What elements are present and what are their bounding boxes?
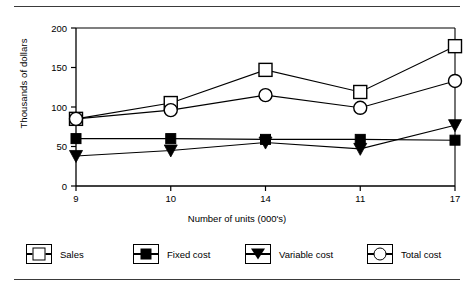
legend-item-total-cost[interactable]: Total cost bbox=[367, 240, 441, 268]
chart-plot-area: 050100150200910141117 bbox=[0, 10, 474, 232]
y-axis-tick-label: 150 bbox=[51, 62, 67, 73]
line-chart-svg: 050100150200910141117 bbox=[0, 10, 474, 232]
series-markers-sales bbox=[70, 40, 462, 126]
bottom-divider-rule bbox=[14, 279, 460, 280]
legend-label: Sales bbox=[60, 249, 84, 260]
data-point bbox=[355, 134, 365, 144]
figure-container: 050100150200910141117 Thousands of dolla… bbox=[0, 0, 474, 292]
x-axis-title: Number of units (000's) bbox=[0, 213, 474, 224]
legend-item-variable-cost[interactable]: Variable cost bbox=[245, 240, 333, 268]
series-line-sales bbox=[76, 46, 455, 119]
y-axis-tick-label: 100 bbox=[51, 102, 67, 113]
data-point bbox=[354, 143, 367, 155]
top-divider-rule bbox=[14, 6, 460, 7]
data-point bbox=[71, 134, 81, 144]
x-axis-tick-label: 11 bbox=[355, 193, 365, 204]
x-axis-tick-label: 14 bbox=[260, 193, 271, 204]
data-point bbox=[354, 85, 367, 98]
y-axis-title: Thousands of dollars bbox=[18, 18, 29, 150]
series-markers-variable-cost bbox=[70, 120, 462, 163]
data-point bbox=[70, 150, 83, 162]
data-point bbox=[449, 120, 462, 132]
legend-label: Fixed cost bbox=[167, 249, 210, 260]
data-point bbox=[164, 104, 177, 117]
data-point bbox=[259, 63, 272, 76]
data-point bbox=[354, 101, 367, 114]
square-open-icon bbox=[26, 244, 52, 264]
x-axis-tick-label: 17 bbox=[450, 193, 461, 204]
data-point bbox=[450, 135, 460, 145]
chart-legend: Sales Fixed cost Variable cost Total cos… bbox=[0, 240, 474, 270]
square-filled-icon bbox=[133, 244, 159, 264]
legend-item-fixed-cost[interactable]: Fixed cost bbox=[133, 240, 210, 268]
y-axis-tick-label: 50 bbox=[56, 141, 67, 152]
y-axis-tick-label: 0 bbox=[62, 181, 67, 192]
data-point bbox=[449, 40, 462, 53]
x-axis-tick-label: 10 bbox=[165, 193, 176, 204]
legend-label: Variable cost bbox=[279, 249, 333, 260]
x-axis-tick-label: 9 bbox=[73, 193, 78, 204]
triangle-down-filled-icon bbox=[245, 244, 271, 264]
series-markers-total-cost bbox=[70, 74, 462, 125]
y-axis-tick-label: 200 bbox=[51, 23, 67, 34]
legend-item-sales[interactable]: Sales bbox=[26, 240, 84, 268]
data-point bbox=[70, 112, 83, 125]
data-point bbox=[259, 89, 272, 102]
legend-label: Total cost bbox=[401, 249, 441, 260]
data-point bbox=[166, 134, 176, 144]
data-point bbox=[449, 74, 462, 87]
circle-open-icon bbox=[367, 244, 393, 264]
